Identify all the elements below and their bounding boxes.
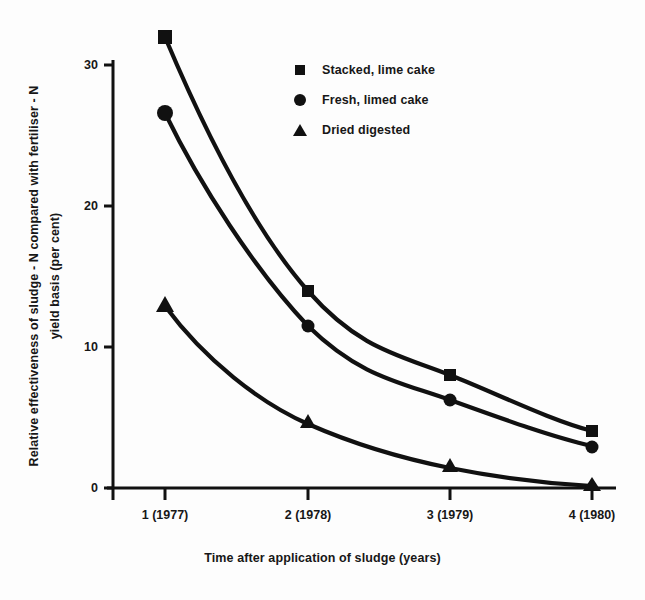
legend-item-stacked-lime-cake: Stacked, lime cake xyxy=(292,55,522,85)
data-point-marker xyxy=(302,320,315,333)
data-point-marker xyxy=(158,30,172,44)
data-point-marker xyxy=(156,296,174,312)
legend-label: Stacked, lime cake xyxy=(314,63,435,77)
series-line-dried-digested xyxy=(165,306,592,486)
x-axis-ticks xyxy=(113,488,592,500)
y-axis-title: Relative effectiveness of sludge - N com… xyxy=(24,41,66,511)
legend-label: Fresh, limed cake xyxy=(314,93,429,107)
chart-figure: Relative effectiveness of sludge - N com… xyxy=(0,0,645,600)
y-tick-label-30: 30 xyxy=(62,58,98,72)
data-point-marker xyxy=(586,441,599,454)
chart-legend: Stacked, lime cake Fresh, limed cake Dri… xyxy=(292,55,522,145)
data-point-marker xyxy=(302,285,314,297)
square-marker-icon xyxy=(292,62,314,78)
x-tick-label-1978: 2 (1978) xyxy=(285,508,332,522)
data-point-marker xyxy=(444,369,456,381)
circle-marker-icon xyxy=(292,92,314,108)
y-tick-label-0: 0 xyxy=(70,481,98,495)
x-tick-label-1980: 4 (1980) xyxy=(569,508,616,522)
y-axis-title-line-2: yield basis (per cent) xyxy=(45,41,66,511)
data-point-marker xyxy=(444,394,457,407)
legend-item-dried-digested: Dried digested xyxy=(292,115,522,145)
y-axis-title-line-1: Relative effectiveness of sludge - N com… xyxy=(27,86,41,467)
data-point-marker xyxy=(157,105,173,121)
scan-edge-artifact: · · — — ·· — · · — — · ·· — ·· — — · · —… xyxy=(0,594,645,600)
series-line-fresh-limed-cake xyxy=(165,113,592,446)
x-tick-label-1979: 3 (1979) xyxy=(427,508,474,522)
triangle-marker-icon xyxy=(292,122,314,138)
y-tick-label-10: 10 xyxy=(62,340,98,354)
legend-item-fresh-limed-cake: Fresh, limed cake xyxy=(292,85,522,115)
y-tick-label-20: 20 xyxy=(62,199,98,213)
x-axis-title: Time after application of sludge (years) xyxy=(0,551,645,565)
series-markers-dried-digested xyxy=(156,296,601,491)
legend-label: Dried digested xyxy=(314,123,410,137)
data-point-marker xyxy=(586,425,598,437)
x-tick-label-1977: 1 (1977) xyxy=(142,508,189,522)
